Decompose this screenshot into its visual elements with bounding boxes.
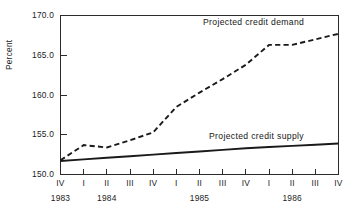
x-axis-year-label: 1986 (282, 193, 301, 203)
y-tick-label: 150.0 (20, 169, 54, 179)
annotation-projected-credit-supply: Projected credit supply (209, 131, 304, 141)
x-tick-label: IV (149, 178, 157, 188)
y-tick-marks (61, 55, 67, 135)
x-axis-year-label: 1983 (51, 193, 70, 203)
x-tick-label: III (312, 178, 320, 188)
chart-plot-area (0, 0, 348, 214)
x-tick-label: I (268, 178, 271, 188)
chart-figure: Percent 170.0165.0160.0155.0150.0 IVIIII… (0, 0, 348, 214)
x-tick-label: I (82, 178, 85, 188)
x-tick-label: IV (334, 178, 342, 188)
x-tick-label: I (175, 178, 178, 188)
x-tick-marks (84, 169, 316, 175)
x-tick-label: II (290, 178, 295, 188)
x-tick-label: II (197, 178, 202, 188)
y-axis-title: Percent (5, 40, 14, 70)
x-tick-label: II (104, 178, 109, 188)
y-tick-label: 170.0 (20, 10, 54, 20)
x-axis-year-label: 1984 (97, 193, 116, 203)
annotation-projected-credit-demand: Projected credit demand (203, 17, 304, 27)
x-axis-year-label: 1985 (190, 193, 209, 203)
y-tick-label: 155.0 (20, 129, 54, 139)
x-tick-label: IV (56, 178, 64, 188)
series-line-demand (61, 34, 339, 160)
y-tick-label: 165.0 (20, 50, 54, 60)
x-tick-label: III (126, 178, 134, 188)
x-tick-label: IV (242, 178, 250, 188)
x-tick-label: III (219, 178, 227, 188)
y-tick-label: 160.0 (20, 90, 54, 100)
